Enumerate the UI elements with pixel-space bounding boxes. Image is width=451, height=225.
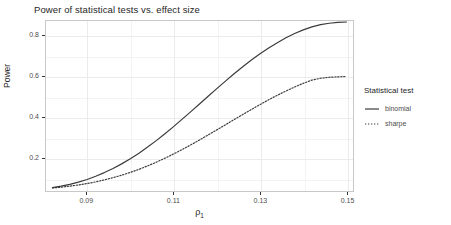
x-axis-title-subscript: 1: [200, 212, 204, 219]
y-tick-label: 0.4: [9, 113, 39, 120]
chart-figure: Power of statistical tests vs. effect si…: [0, 0, 451, 225]
x-tick-mark: [347, 192, 348, 195]
series-line-binomial: [52, 22, 346, 188]
legend-title: Statistical test: [364, 86, 450, 95]
legend-entry[interactable]: binomial: [364, 101, 450, 116]
x-tick-label: 0.09: [66, 197, 106, 204]
x-tick-label: 0.11: [153, 197, 193, 204]
x-tick-label: 0.13: [240, 197, 280, 204]
x-tick-mark: [260, 192, 261, 195]
legend-key-solid-icon: [364, 102, 380, 116]
legend-label: binomial: [385, 105, 411, 112]
x-tick-mark: [173, 192, 174, 195]
legend: Statistical test binomialsharpe: [364, 86, 450, 131]
legend-entries: binomialsharpe: [364, 101, 450, 131]
x-axis-title: ρ1: [45, 207, 354, 219]
y-tick-label: 0.2: [9, 154, 39, 161]
x-tick-label: 0.15: [327, 197, 367, 204]
x-tick-mark: [86, 192, 87, 195]
series-line-sharpe: [52, 76, 346, 188]
chart-title: Power of statistical tests vs. effect si…: [34, 4, 200, 15]
legend-label: sharpe: [385, 120, 406, 127]
plot-panel: [45, 20, 354, 192]
y-tick-label: 0.8: [9, 31, 39, 38]
legend-entry[interactable]: sharpe: [364, 116, 450, 131]
legend-key-dotted-icon: [364, 117, 380, 131]
series-lines: [46, 21, 353, 191]
y-tick-label: 0.6: [9, 72, 39, 79]
